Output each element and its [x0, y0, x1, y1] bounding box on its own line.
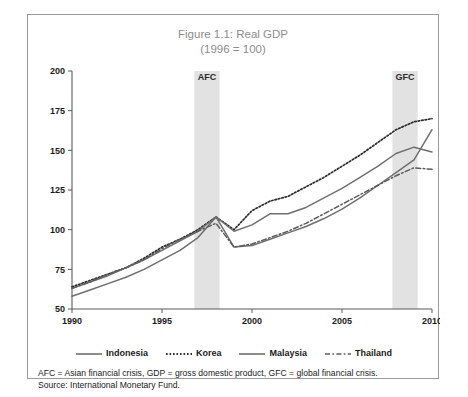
figure-title-line-2: (1996 = 100) — [28, 42, 438, 57]
band-label-afc: AFC — [198, 72, 217, 82]
chart-axes — [72, 71, 432, 309]
real-gdp-line-chart: 507510012515017520019901995200020052010 … — [28, 59, 440, 334]
band-label-gfc: GFC — [396, 72, 415, 82]
y-tick-label: 125 — [50, 185, 65, 195]
x-tick-label: 1990 — [62, 316, 82, 326]
note-source: Source: International Monetary Fund. — [38, 379, 430, 391]
y-tick-label: 175 — [50, 106, 65, 116]
figure-notes: AFC = Asian financial crisis, GDP = gros… — [38, 367, 430, 391]
axis-tick-labels: 507510012515017520019901995200020052010 — [50, 66, 440, 326]
series-line-korea — [72, 119, 432, 287]
x-tick-label: 1995 — [152, 316, 172, 326]
figure-container: Figure 1.1: Real GDP (1996 = 100) 507510… — [27, 14, 439, 379]
y-tick-label: 75 — [55, 265, 65, 275]
y-tick-label: 200 — [50, 66, 65, 76]
chart-legend: IndonesiaKoreaMalaysiaThailand — [28, 348, 440, 358]
legend-swatch-korea — [166, 349, 192, 358]
band-afc — [194, 71, 219, 309]
figure-title: Figure 1.1: Real GDP (1996 = 100) — [28, 27, 438, 57]
y-tick-label: 50 — [55, 304, 65, 314]
legend-item-korea[interactable]: Korea — [166, 348, 222, 358]
crisis-bands — [194, 71, 417, 309]
legend-item-malaysia[interactable]: Malaysia — [239, 348, 307, 358]
legend-item-indonesia[interactable]: Indonesia — [76, 348, 148, 358]
legend-label-malaysia: Malaysia — [269, 348, 307, 358]
figure-title-line-1: Figure 1.1: Real GDP — [28, 27, 438, 42]
legend-item-thailand[interactable]: Thailand — [325, 348, 392, 358]
legend-label-thailand: Thailand — [355, 348, 392, 358]
legend-label-indonesia: Indonesia — [106, 348, 148, 358]
note-abbreviations: AFC = Asian financial crisis, GDP = gros… — [38, 367, 430, 379]
x-tick-label: 2000 — [242, 316, 262, 326]
x-tick-label: 2010 — [422, 316, 440, 326]
series-line-indonesia — [72, 130, 432, 297]
legend-swatch-indonesia — [76, 349, 102, 358]
data-series — [72, 119, 432, 297]
x-tick-label: 2005 — [332, 316, 352, 326]
legend-label-korea: Korea — [196, 348, 222, 358]
legend-swatch-thailand — [325, 349, 351, 358]
crisis-band-labels: AFCGFC — [198, 72, 415, 82]
legend-swatch-malaysia — [239, 349, 265, 358]
chart-plot-area: 507510012515017520019901995200020052010 … — [28, 59, 440, 334]
y-tick-label: 100 — [50, 225, 65, 235]
y-tick-label: 150 — [50, 146, 65, 156]
band-gfc — [392, 71, 417, 309]
series-line-thailand — [72, 168, 432, 289]
